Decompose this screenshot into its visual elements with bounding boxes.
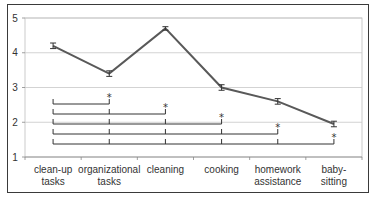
significance-bracket: * <box>53 92 112 104</box>
svg-text:assistance: assistance <box>254 176 302 187</box>
significance-star: * <box>163 102 168 113</box>
svg-text:cooking: cooking <box>204 164 238 175</box>
y-tick-label: 5 <box>12 13 18 24</box>
significance-star: * <box>219 112 224 123</box>
svg-text:baby-: baby- <box>321 164 346 175</box>
y-tick-label: 3 <box>12 82 18 93</box>
svg-text:homework: homework <box>255 164 302 175</box>
significance-star: * <box>275 122 280 133</box>
y-tick-label: 2 <box>12 117 18 128</box>
significance-star: * <box>107 92 112 103</box>
svg-text:organizational: organizational <box>78 164 140 175</box>
significance-star: * <box>331 132 336 143</box>
svg-text:sitting: sitting <box>321 176 347 187</box>
x-category-label: baby-sitting <box>321 164 347 187</box>
svg-text:tasks: tasks <box>98 176 121 187</box>
y-tick-label: 4 <box>12 47 18 58</box>
y-tick-label: 1 <box>12 152 18 163</box>
x-category-label: clean-uptasks <box>34 164 73 187</box>
line-chart: 12345clean-uptasksorganizationaltaskscle… <box>0 0 379 199</box>
svg-text:clean-up: clean-up <box>34 164 73 175</box>
series-line <box>53 28 334 124</box>
svg-text:cleaning: cleaning <box>147 164 184 175</box>
x-category-label: organizationaltasks <box>78 164 140 187</box>
svg-text:tasks: tasks <box>41 176 64 187</box>
x-category-label: homeworkassistance <box>254 164 302 187</box>
x-category-label: cooking <box>204 164 238 175</box>
x-category-label: cleaning <box>147 164 184 175</box>
